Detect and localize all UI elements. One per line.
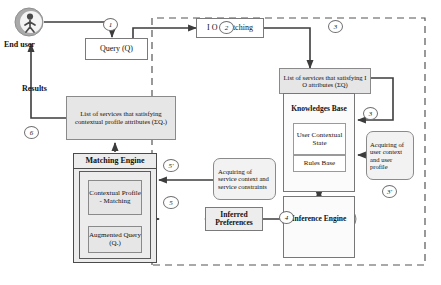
step-marker-4: 4 [279, 211, 294, 224]
step-marker-5: 5 [163, 196, 179, 209]
person-avatar-icon [15, 8, 43, 36]
step-marker-6: 6 [24, 126, 39, 139]
arrow-io-matching-to-list-io [264, 28, 310, 68]
node-contextual-profile-matching[interactable]: Contextual Profile - Matching [88, 180, 142, 215]
step-marker-1: 1 [103, 18, 118, 31]
diagram-canvas: End user Results Query (Q) I O -Matching… [0, 0, 441, 285]
node-acquiring-service-context[interactable]: Acquiring of service context and service… [213, 158, 276, 200]
arrow-enduser-to-query [44, 22, 112, 37]
step-marker-2: 2 [219, 21, 234, 34]
step-marker-5-prime: 5' [163, 159, 179, 172]
matching-engine-title: Matching Engine [73, 153, 157, 169]
node-inferred-preferences[interactable]: Inferred Preferences [205, 207, 263, 231]
node-acquiring-user-context[interactable]: Acquiring of user context and user profi… [366, 131, 414, 180]
node-augmented-query[interactable]: Augmented Query (Qₐ) [88, 226, 142, 253]
step-marker-3-kb: 3 [363, 107, 378, 120]
arrow-results-to-enduser [31, 44, 66, 118]
step-marker-3-prime: 3' [382, 185, 397, 198]
step-marker-3-top: 3 [328, 20, 343, 33]
results-label: Results [22, 84, 47, 93]
node-query[interactable]: Query (Q) [85, 38, 148, 60]
knowledges-base-title: Knowledges Base [287, 98, 351, 121]
node-rules-base[interactable]: Rules Base [293, 155, 346, 172]
node-user-contextual-state[interactable]: User Contextual State [293, 123, 346, 155]
node-list-contextual-attributes[interactable]: List of services that satisfying context… [66, 96, 176, 140]
node-list-io-attributes[interactable]: List of services that satisfying I O att… [279, 68, 371, 94]
end-user-label: End user [4, 40, 35, 49]
